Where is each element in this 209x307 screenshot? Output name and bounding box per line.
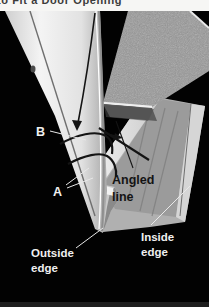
jamb-screw-hole <box>31 66 36 73</box>
caption-strip: to Fit a Door Opening <box>0 0 209 11</box>
label-a: A <box>53 185 62 199</box>
label-inside-edge-2: edge <box>141 246 168 258</box>
label-inside-edge-1: Inside <box>141 231 174 243</box>
photo-svg: B A Angled line Outside edge Inside edge <box>0 11 209 307</box>
photo-bottom-edge <box>0 302 209 307</box>
label-angled-line-2: line <box>112 190 134 204</box>
caption-text: to Fit a Door Opening <box>0 0 122 6</box>
label-outside-edge-1: Outside <box>31 247 74 259</box>
label-b: B <box>36 125 45 139</box>
photo-area: B A Angled line Outside edge Inside edge <box>0 11 209 307</box>
label-angled-line-1: Angled <box>112 173 154 187</box>
instructional-figure: to Fit a Door Opening <box>0 0 209 307</box>
label-outside-edge-2: edge <box>31 262 58 274</box>
